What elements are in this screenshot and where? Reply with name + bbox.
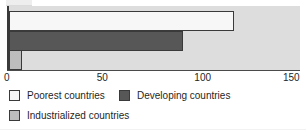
legend-row-secondary: Industrialized countries <box>9 106 299 124</box>
legend-row-primary: Poorest countriesDeveloping countries <box>9 86 299 104</box>
legend-label: Poorest countries <box>27 89 105 102</box>
x-tick-label-100: 100 <box>194 71 211 84</box>
legend-swatch-icon <box>9 90 20 101</box>
figure-bottom-rule <box>0 129 306 130</box>
legend-item-developing-countries[interactable]: Developing countries <box>119 86 230 104</box>
bar-poorest-countries <box>9 11 234 31</box>
bar-industrialized-countries <box>9 50 22 70</box>
bar-developing-countries <box>9 31 183 51</box>
chart-legend: Poorest countriesDeveloping countries In… <box>9 86 299 128</box>
legend-swatch-icon <box>9 110 20 121</box>
x-axis-tick-labels: 050100150 <box>0 71 306 85</box>
legend-label: Industrialized countries <box>27 109 129 122</box>
x-tick-label-150: 150 <box>283 71 300 84</box>
bar-chart-figure: 050100150 Poorest countriesDeveloping co… <box>0 0 306 130</box>
legend-item-poorest-countries[interactable]: Poorest countries <box>9 86 105 104</box>
legend-label: Developing countries <box>137 89 230 102</box>
plot-area <box>7 6 300 70</box>
bars-layer <box>9 6 300 70</box>
legend-swatch-icon <box>119 90 130 101</box>
legend-item-industrialized-countries[interactable]: Industrialized countries <box>9 106 129 124</box>
x-tick-label-0: 0 <box>4 71 10 84</box>
x-tick-label-50: 50 <box>97 71 108 84</box>
